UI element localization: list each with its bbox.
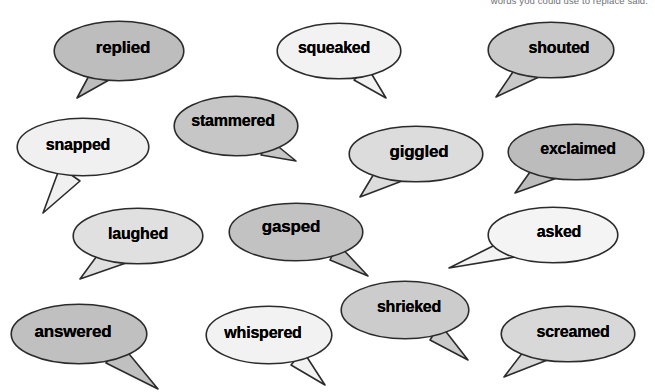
worksheet-canvas: words you could use to replace said. rep… bbox=[0, 0, 655, 392]
speech-bubble-shape-laughed bbox=[72, 207, 204, 265]
speech-bubble-shape-snapped bbox=[16, 117, 150, 177]
speech-bubble-asked[interactable]: asked bbox=[487, 206, 619, 264]
speech-bubble-shape-giggled bbox=[348, 125, 484, 183]
speech-bubble-shape-answered bbox=[10, 303, 148, 365]
speech-bubble-giggled[interactable]: giggled bbox=[348, 125, 484, 183]
bubble-body-giggled bbox=[349, 126, 483, 182]
bubble-body-stammered bbox=[174, 96, 298, 156]
speech-bubble-shape-stammered bbox=[173, 95, 299, 157]
speech-bubble-shape-shouted bbox=[487, 21, 615, 79]
speech-bubble-answered[interactable]: answered bbox=[10, 303, 148, 365]
bubble-body-squeaked bbox=[277, 23, 401, 79]
bubble-body-answered bbox=[11, 304, 147, 364]
speech-bubble-squeaked[interactable]: squeaked bbox=[276, 22, 402, 80]
speech-bubble-replied[interactable]: replied bbox=[53, 20, 185, 82]
speech-bubble-shape-screamed bbox=[500, 305, 636, 363]
speech-bubble-gasped[interactable]: gasped bbox=[228, 202, 364, 262]
speech-bubble-stammered[interactable]: stammered bbox=[173, 95, 299, 157]
bubble-body-gasped bbox=[229, 203, 363, 261]
bubble-body-laughed bbox=[73, 208, 203, 264]
speech-bubble-shape-exclaimed bbox=[507, 123, 645, 181]
speech-bubble-shape-shrieked bbox=[340, 280, 470, 340]
speech-bubble-shape-whispered bbox=[205, 305, 333, 365]
bubble-body-snapped bbox=[17, 118, 149, 176]
speech-bubble-shape-replied bbox=[53, 20, 185, 82]
speech-bubble-shape-gasped bbox=[228, 202, 364, 262]
speech-bubble-whispered[interactable]: whispered bbox=[205, 305, 333, 365]
bubble-body-shrieked bbox=[341, 281, 469, 339]
bubble-body-whispered bbox=[206, 306, 332, 364]
speech-bubble-shrieked[interactable]: shrieked bbox=[340, 280, 470, 340]
speech-bubble-shouted[interactable]: shouted bbox=[487, 21, 615, 79]
bubble-body-screamed bbox=[501, 306, 635, 362]
bubble-body-replied bbox=[54, 21, 184, 81]
speech-bubble-exclaimed[interactable]: exclaimed bbox=[507, 123, 645, 181]
header-text: words you could use to replace said. bbox=[0, 0, 655, 7]
bubble-body-exclaimed bbox=[508, 124, 644, 180]
speech-bubble-screamed[interactable]: screamed bbox=[500, 305, 636, 363]
bubble-body-shouted bbox=[488, 22, 614, 78]
speech-bubble-shape-asked bbox=[487, 206, 619, 264]
speech-bubble-laughed[interactable]: laughed bbox=[72, 207, 204, 265]
speech-bubble-snapped[interactable]: snapped bbox=[16, 117, 150, 177]
bubble-body-asked bbox=[488, 207, 618, 263]
speech-bubble-shape-squeaked bbox=[276, 22, 402, 80]
